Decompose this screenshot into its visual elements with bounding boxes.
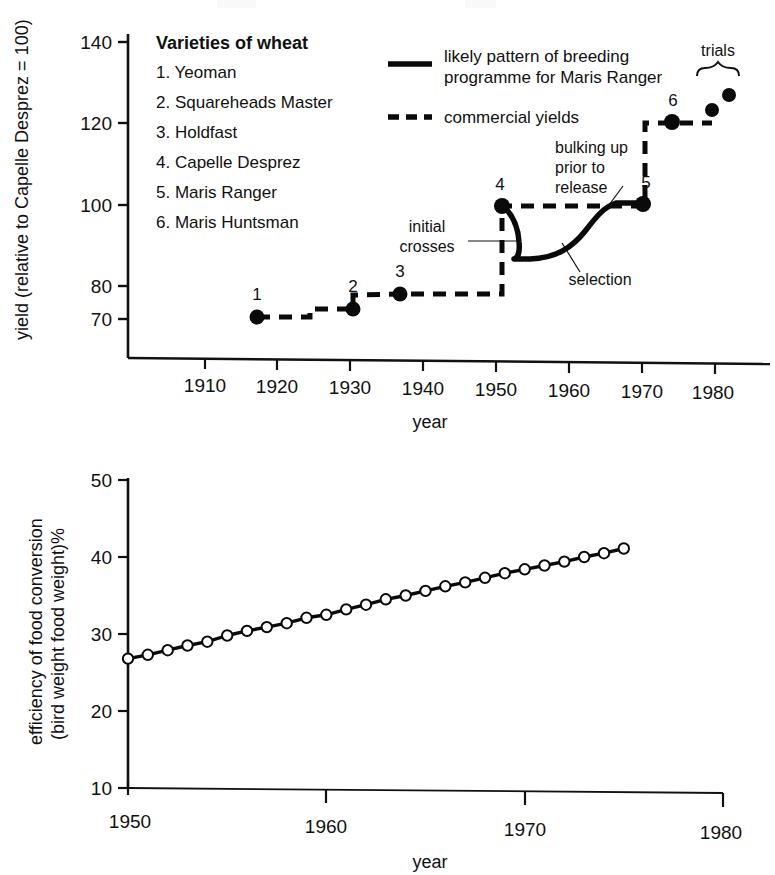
annotation-bulking-up: bulking up prior to release	[555, 139, 628, 205]
efficiency-point-1956	[242, 626, 252, 636]
annotation-selection-label: selection	[568, 271, 631, 288]
efficiency-point-1955	[222, 630, 232, 640]
annotation-initial-crosses-line1: initial	[409, 218, 445, 235]
series-legend: likely pattern of breeding programme for…	[388, 47, 663, 127]
wheat-x-tick-1950: 1950	[475, 379, 517, 400]
wheat-y-tick-100: 100	[80, 195, 112, 216]
efficiency-point-1963	[381, 594, 391, 604]
annotation-initial-crosses-line2: crosses	[399, 238, 454, 255]
wheat-x-tick-1940: 1940	[402, 378, 444, 399]
efficiency-point-1972	[559, 556, 569, 566]
variety-item-1: 1. Yeoman	[156, 63, 236, 82]
efficiency-point-1971	[539, 560, 549, 570]
efficiency-point-1954	[202, 637, 212, 647]
efficiency-point-1966	[440, 581, 450, 591]
wheat-x-tick-1910: 1910	[184, 375, 226, 396]
annotation-bulking-line1: bulking up	[555, 139, 628, 156]
legend-label-commercial: commercial yields	[444, 108, 579, 127]
efficiency-point-1973	[579, 552, 589, 562]
efficiency-point-1960	[321, 610, 331, 620]
efficiency-point-1968	[480, 573, 490, 583]
efficiency-point-1975	[619, 543, 629, 553]
efficiency-x-tick-1960: 1960	[305, 816, 347, 837]
wheat-trial-point-b	[722, 88, 736, 102]
efficiency-x-tick-1980: 1980	[700, 822, 742, 843]
efficiency-point-1970	[520, 564, 530, 574]
efficiency-point-1952	[163, 645, 173, 655]
efficiency-point-1964	[401, 590, 411, 600]
efficiency-point-1959	[301, 613, 311, 623]
commercial-yields-step-path	[257, 123, 712, 317]
efficiency-point-1974	[599, 548, 609, 558]
efficiency-point-1958	[282, 618, 292, 628]
wheat-y-ticks	[118, 42, 128, 319]
wheat-x-tick-labels: 1910 1920 1930 1940 1950 1960 1970 1980	[184, 375, 734, 403]
annotation-trials: trials	[697, 42, 739, 76]
wheat-point-label-5: 5	[641, 173, 650, 192]
legend-label-breeding-line2: programme for Maris Ranger	[444, 68, 663, 87]
wheat-y-tick-120: 120	[80, 113, 112, 134]
variety-item-5: 5. Maris Ranger	[156, 183, 277, 202]
wheat-y-tick-80: 80	[91, 276, 112, 297]
efficiency-point-1962	[361, 600, 371, 610]
wheat-point-6	[664, 114, 680, 130]
wheat-point-label-4: 4	[495, 175, 504, 194]
wheat-trial-point-a	[705, 103, 719, 117]
variety-item-6: 6. Maris Huntsman	[156, 213, 299, 232]
efficiency-y-axis-title-line1: efficiency of food conversion	[26, 518, 46, 745]
efficiency-point-1961	[341, 604, 351, 614]
wheat-y-tick-labels: 140 120 100 80 70	[80, 32, 112, 330]
food-conversion-svg: efficiency of food conversion (bird weig…	[0, 440, 775, 875]
food-conversion-chart: efficiency of food conversion (bird weig…	[0, 440, 775, 875]
annotation-trials-label: trials	[701, 42, 735, 59]
efficiency-point-1950	[123, 653, 133, 663]
wheat-yield-svg: yield (relative to Capelle Desprez = 100…	[0, 0, 775, 440]
efficiency-point-1957	[262, 622, 272, 632]
variety-item-3: 3. Holdfast	[156, 123, 238, 142]
wheat-x-tick-1920: 1920	[256, 376, 298, 397]
wheat-point-label-6: 6	[668, 91, 677, 110]
wheat-point-label-3: 3	[395, 262, 404, 281]
efficiency-y-tick-30: 30	[91, 624, 112, 645]
efficiency-x-tick-labels: 1950 1960 1970 1980	[109, 811, 742, 843]
wheat-yield-chart: yield (relative to Capelle Desprez = 100…	[0, 0, 775, 440]
wheat-point-label-2: 2	[348, 277, 357, 296]
variety-item-4: 4. Capelle Desprez	[156, 153, 301, 172]
wheat-point-5	[635, 196, 651, 212]
wheat-x-tick-1980: 1980	[692, 382, 734, 403]
efficiency-point-1967	[460, 577, 470, 587]
efficiency-point-1953	[182, 640, 192, 650]
wheat-y-tick-70: 70	[91, 309, 112, 330]
breeding-programme-curve	[503, 203, 641, 259]
wheat-x-axis-line	[128, 358, 770, 364]
wheat-x-tick-1970: 1970	[621, 381, 663, 402]
efficiency-y-tick-20: 20	[91, 701, 112, 722]
figure-root: yield (relative to Capelle Desprez = 100…	[0, 0, 775, 875]
efficiency-x-ticks	[128, 781, 723, 807]
annotation-trials-brace	[697, 62, 739, 76]
efficiency-y-tick-50: 50	[91, 470, 112, 491]
wheat-x-axis-title: year	[412, 412, 447, 432]
efficiency-y-tick-10: 10	[91, 778, 112, 799]
wheat-point-label-1: 1	[252, 285, 261, 304]
wheat-x-tick-1930: 1930	[329, 377, 371, 398]
variety-item-2: 2. Squareheads Master	[156, 93, 333, 112]
legend-label-breeding-line1: likely pattern of breeding	[444, 47, 629, 66]
wheat-point-1	[250, 310, 265, 325]
efficiency-y-axis-title-line2: (bird weight food weight)%	[48, 528, 68, 740]
wheat-x-tick-1960: 1960	[548, 380, 590, 401]
varieties-legend: Varieties of wheat 1. Yeoman 2. Squarehe…	[156, 33, 333, 232]
varieties-legend-title: Varieties of wheat	[156, 33, 308, 53]
wheat-point-4	[494, 198, 510, 214]
efficiency-point-1969	[500, 568, 510, 578]
annotation-bulking-line3: release	[555, 179, 608, 196]
wheat-y-tick-140: 140	[80, 32, 112, 53]
annotation-selection: selection	[562, 243, 632, 288]
efficiency-x-axis-title: year	[412, 852, 447, 872]
efficiency-y-tick-40: 40	[91, 547, 112, 568]
efficiency-x-axis-line	[128, 788, 723, 793]
wheat-y-axis-title: yield (relative to Capelle Desprez = 100…	[12, 19, 32, 340]
efficiency-y-tick-labels: 50 40 30 20 10	[91, 470, 112, 799]
annotation-initial-crosses: initial crosses	[399, 218, 516, 255]
wheat-point-3	[393, 287, 408, 302]
